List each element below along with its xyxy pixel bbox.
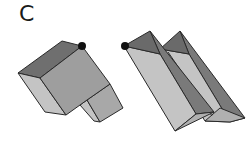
double-prism xyxy=(121,31,245,131)
diagram-canvas xyxy=(0,0,249,141)
l-shaped-block xyxy=(18,41,123,122)
corner-marker-dot xyxy=(121,42,129,50)
corner-marker-dot xyxy=(78,42,86,50)
